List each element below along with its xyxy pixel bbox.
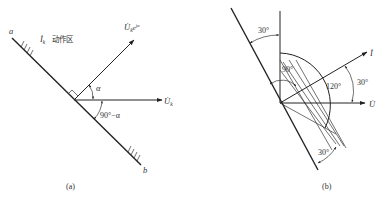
angle-top-label: 30°	[258, 26, 269, 35]
angle-alpha-label: α	[96, 83, 101, 93]
diagram-canvas: a b İk 动作区 U̇k U̇kejα α 90°−α (a) 30°	[0, 0, 382, 200]
zone-current-symbol: İk	[39, 34, 46, 45]
boundary-line-ab	[12, 38, 141, 165]
angle-wide-label: 120°	[326, 82, 341, 91]
boundary-line	[231, 8, 318, 170]
vector-uk-rotated	[74, 40, 134, 100]
vector-voltage-label: U̇	[369, 99, 376, 109]
caption-b: (b)	[322, 182, 332, 191]
angle-complement-label: 90°−α	[100, 111, 121, 120]
angle-top-arc	[250, 35, 279, 43]
figure-a: a b İk 动作区 U̇k U̇kejα α 90°−α (a)	[9, 22, 173, 191]
vector-uk-label: U̇k	[164, 96, 173, 107]
action-zone-label: 动作区	[52, 34, 74, 44]
endpoint-b-label: b	[143, 165, 147, 175]
vector-current-label: İ	[369, 48, 374, 58]
angle-current-arc	[345, 66, 354, 102]
angle-current-label: 30°	[357, 78, 368, 87]
vector-current	[280, 52, 367, 103]
angle-bottom-label: 30°	[318, 148, 329, 157]
angle-alpha-arc	[89, 85, 93, 99]
angle-inner-label: 90°	[282, 65, 293, 74]
caption-a: (a)	[66, 182, 75, 191]
vector-uk-rotated-label: U̇kejα	[124, 22, 140, 33]
endpoint-a-label: a	[9, 26, 13, 36]
figure-b: 30° 90° İ U̇ 120° 30° 30° (b)	[231, 8, 376, 191]
